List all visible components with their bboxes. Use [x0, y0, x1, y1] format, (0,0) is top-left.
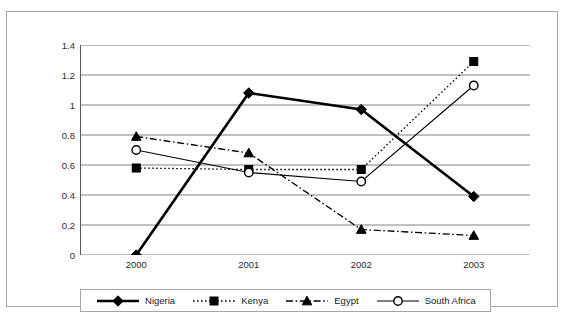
chart-screenshot: 00.20.40.60.811.21.4 2000200120022003 Ni… [0, 0, 567, 315]
data-point-marker [393, 296, 401, 304]
chart-legend: NigeriaKenyaEgyptSouth Africa [80, 289, 491, 312]
x-axis: 2000200120022003 [80, 259, 530, 275]
data-point-marker [357, 177, 365, 185]
x-tick-label: 2001 [219, 259, 279, 270]
legend-marker-icon [191, 294, 237, 308]
legend-marker-icon [284, 294, 330, 308]
y-axis: 00.20.40.60.811.21.4 [43, 45, 75, 255]
series-nigeria [131, 88, 479, 255]
data-point-marker [470, 81, 478, 89]
data-point-marker [356, 225, 366, 234]
series-line [136, 86, 474, 182]
y-tick-label: 0.6 [45, 160, 75, 171]
data-point-marker [132, 146, 140, 154]
data-point-marker [244, 148, 254, 157]
legend-item[interactable]: Kenya [191, 294, 268, 308]
data-point-marker [132, 164, 140, 172]
x-tick-label: 2000 [106, 259, 166, 270]
plot-svg [80, 45, 530, 255]
legend-marker-icon [95, 294, 141, 308]
data-point-marker [245, 168, 253, 176]
series-line [136, 137, 474, 236]
plot-area [80, 45, 530, 255]
legend-item[interactable]: South Africa [375, 294, 476, 308]
chart-frame: 00.20.40.60.811.21.4 2000200120022003 Ni… [6, 11, 558, 307]
data-point-marker [470, 58, 478, 66]
series-line [136, 93, 474, 255]
x-tick-label: 2002 [331, 259, 391, 270]
y-tick-label: 1 [45, 100, 75, 111]
data-point-marker [131, 132, 141, 141]
y-tick-label: 0 [45, 250, 75, 261]
data-point-marker [113, 295, 123, 305]
y-tick-label: 1.2 [45, 70, 75, 81]
legend-label: Kenya [241, 295, 268, 306]
legend-label: Egypt [334, 295, 358, 306]
legend-label: Nigeria [145, 295, 175, 306]
series-line [136, 62, 474, 170]
y-tick-label: 0.4 [45, 190, 75, 201]
y-tick-label: 0.8 [45, 130, 75, 141]
legend-marker-icon [375, 294, 421, 308]
chart-title [0, 0, 567, 2]
y-tick-label: 0.2 [45, 220, 75, 231]
legend-item[interactable]: Egypt [284, 294, 358, 308]
data-point-marker [357, 166, 365, 174]
x-tick-label: 2003 [444, 259, 504, 270]
y-tick-label: 1.4 [45, 40, 75, 51]
legend-label: South Africa [425, 295, 476, 306]
legend-item[interactable]: Nigeria [95, 294, 175, 308]
data-point-marker [210, 297, 218, 305]
